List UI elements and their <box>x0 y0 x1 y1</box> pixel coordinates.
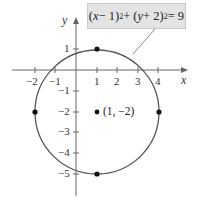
eq-part: + 2) <box>143 9 164 24</box>
y-axis-label: y <box>62 14 67 26</box>
y-axis-arrow-icon <box>73 17 79 24</box>
x-tick-label: 3 <box>135 76 141 87</box>
eq-part: − 1) <box>99 9 120 24</box>
y-tick-label: −3 <box>58 126 70 137</box>
x-tick-label: 1 <box>94 76 100 87</box>
x-tick-label: −2 <box>26 76 38 87</box>
y-tick-label: −5 <box>58 168 70 179</box>
y-tick-label: −4 <box>58 147 70 158</box>
y-tick-label: −1 <box>58 85 70 96</box>
callout-line <box>133 29 155 54</box>
point-top <box>94 46 99 51</box>
center-point-label: (1, −2) <box>103 106 134 118</box>
eq-part: = 9 <box>168 9 184 24</box>
point-center <box>95 110 100 115</box>
point-bottom <box>94 171 99 176</box>
y-tick-label: −2 <box>58 106 70 117</box>
x-tick-label: 4 <box>155 76 161 87</box>
x-axis-label: x <box>181 74 186 86</box>
point-left <box>32 109 37 114</box>
equation-label: (x − 1)2 + (y + 2)2 = 9 <box>87 3 186 29</box>
coordinate-plane <box>0 0 206 202</box>
y-tick-label: 1 <box>64 43 70 54</box>
x-tick-label: 2 <box>114 76 120 87</box>
point-right <box>156 109 161 114</box>
eq-part: + ( <box>123 9 137 24</box>
